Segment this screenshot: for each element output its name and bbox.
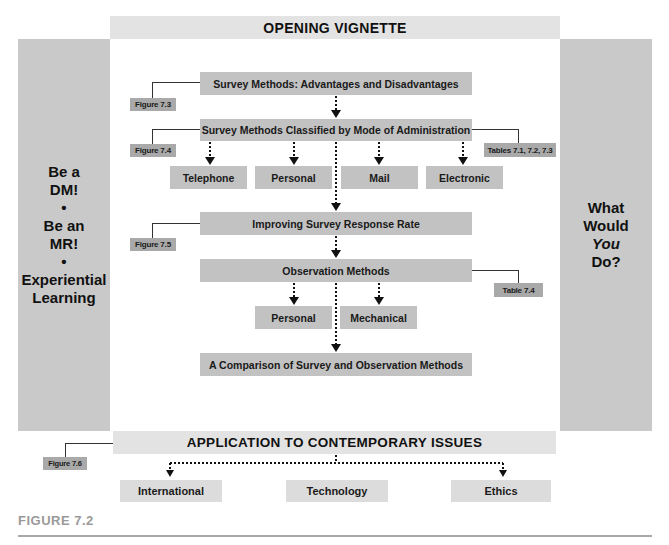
figure-7-4-tag: Figure 7.4 [130, 144, 176, 157]
figure-7-6-label: Figure 7.6 [48, 459, 81, 468]
mode-electronic-box: Electronic [426, 166, 503, 189]
figure-7-3-tag: Figure 7.3 [130, 98, 176, 111]
arrow-down-icon [331, 203, 341, 211]
observation-personal-label: Personal [271, 312, 315, 324]
figure-7-5-tag: Figure 7.5 [130, 238, 176, 251]
figure-7-3-label: Figure 7.3 [135, 100, 171, 109]
mode-personal-label: Personal [271, 172, 315, 184]
arrow-down-icon [331, 110, 341, 118]
observation-mechanical-box: Mechanical [340, 306, 417, 329]
figure-7-5-label: Figure 7.5 [135, 240, 171, 249]
comparison-box: A Comparison of Survey and Observation M… [200, 353, 472, 376]
arrow-down-icon [331, 250, 341, 258]
observation-personal-box: Personal [255, 306, 332, 329]
caption-divider [18, 535, 652, 537]
survey-advantages-box: Survey Methods: Advantages and Disadvant… [200, 72, 472, 95]
mode-mail-box: Mail [341, 166, 418, 189]
figure-caption-label: FIGURE 7.2 [18, 513, 94, 528]
table-7-4-label: Table 7.4 [503, 286, 535, 295]
arrow-down-icon [499, 470, 507, 477]
application-ethics-label: Ethics [484, 485, 517, 497]
figure-7-4-label: Figure 7.4 [135, 146, 171, 155]
application-technology-label: Technology [307, 485, 368, 497]
figure-caption: FIGURE 7.2 [18, 513, 94, 528]
arrow-down-icon [289, 157, 299, 165]
arrow-down-icon [166, 470, 174, 477]
survey-classified-label: Survey Methods Classified by Mode of Adm… [202, 124, 471, 136]
mode-telephone-box: Telephone [170, 166, 247, 189]
improving-response-box: Improving Survey Response Rate [200, 212, 472, 235]
mode-mail-label: Mail [369, 172, 389, 184]
application-international-box: International [120, 480, 222, 502]
comparison-label: A Comparison of Survey and Observation M… [209, 359, 463, 371]
mode-electronic-label: Electronic [439, 172, 490, 184]
application-ethics-box: Ethics [451, 480, 551, 502]
arrow-down-icon [374, 297, 384, 305]
arrow-down-icon [331, 344, 341, 352]
application-international-label: International [138, 485, 204, 497]
arrow-down-icon [289, 297, 299, 305]
figure-7-6-tag: Figure 7.6 [43, 457, 87, 470]
improving-response-label: Improving Survey Response Rate [252, 218, 419, 230]
arrow-down-icon [458, 157, 468, 165]
application-header: APPLICATION TO CONTEMPORARY ISSUES [113, 431, 556, 454]
survey-advantages-label: Survey Methods: Advantages and Disadvant… [213, 78, 458, 90]
mode-personal-box: Personal [255, 166, 332, 189]
application-title: APPLICATION TO CONTEMPORARY ISSUES [187, 435, 482, 450]
application-technology-box: Technology [286, 480, 388, 502]
survey-classified-box: Survey Methods Classified by Mode of Adm… [200, 119, 472, 141]
tables-7-1-7-3-tag: Tables 7.1, 7.2, 7.3 [484, 143, 556, 157]
arrow-down-icon [374, 157, 384, 165]
mode-telephone-label: Telephone [183, 172, 235, 184]
table-7-4-tag: Table 7.4 [494, 283, 543, 297]
tables-7-1-7-3-label: Tables 7.1, 7.2, 7.3 [487, 146, 552, 155]
observation-mechanical-label: Mechanical [350, 312, 407, 324]
observation-methods-box: Observation Methods [200, 259, 472, 282]
observation-methods-label: Observation Methods [282, 265, 389, 277]
arrow-down-icon [205, 157, 215, 165]
